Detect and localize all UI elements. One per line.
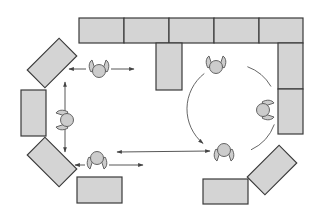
- desk-left-bottom-angled: [27, 137, 76, 186]
- rotation-arc-left: [187, 74, 204, 144]
- person-top-right-icon: [206, 56, 226, 74]
- desk-bottom-right: [203, 179, 248, 204]
- classroom-layout-diagram: Classroom seating layout with movement p…: [0, 0, 320, 219]
- desk-top-3: [169, 18, 214, 43]
- person-left-icon: [56, 110, 74, 130]
- diagram-canvas: [0, 0, 320, 219]
- rotation-arc-top-right: [247, 67, 271, 87]
- person-bottom-left-icon: [87, 152, 107, 170]
- arrow-middle-horizontal-icon: [117, 151, 210, 152]
- desk-right-1: [278, 43, 303, 89]
- movement-arrows-group: [65, 69, 210, 165]
- person-bottom-right-icon: [214, 144, 234, 162]
- desk-left-top-angled: [27, 38, 76, 87]
- desk-bottom-left: [77, 177, 122, 203]
- desk-center-drop: [156, 43, 182, 90]
- person-right-icon: [257, 100, 275, 120]
- person-top-left-icon: [89, 60, 109, 78]
- desk-top-5: [259, 18, 303, 43]
- rotation-arc-bottom-right: [251, 124, 274, 149]
- desk-top-2: [124, 18, 169, 43]
- desk-right-2: [278, 89, 303, 134]
- desk-top-1: [79, 18, 124, 43]
- desk-left-middle: [21, 90, 46, 136]
- desk-top-4: [214, 18, 259, 43]
- desk-right-bottom-angled: [247, 145, 296, 194]
